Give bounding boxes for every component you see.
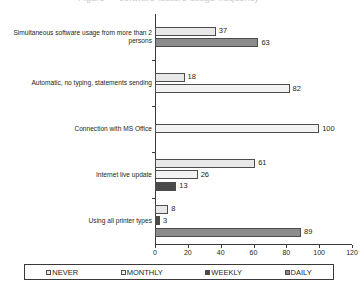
category-tick — [152, 106, 156, 107]
x-axis-tick — [155, 245, 156, 248]
legend-label-weekly: WEEKLY — [211, 268, 242, 277]
legend-swatch-daily — [285, 270, 290, 275]
legend-item-never[interactable]: NEVER — [46, 268, 78, 277]
bar-value-label: 3 — [163, 216, 167, 225]
x-axis-tick-label: 0 — [153, 249, 157, 256]
legend-swatch-monthly — [121, 270, 126, 275]
bar-value-label: 26 — [201, 170, 209, 179]
x-axis-tick — [221, 245, 222, 248]
bar-never — [155, 159, 255, 168]
category-label: Connection with MS Office — [0, 125, 156, 134]
bar-weekly — [155, 182, 176, 191]
category-label: Using all printer types — [0, 217, 156, 226]
bar-value-label: 8 — [171, 204, 175, 213]
bar-value-label: 61 — [258, 158, 266, 167]
x-axis-tick-label: 100 — [313, 249, 325, 256]
bar-never — [155, 205, 168, 214]
bar-monthly — [155, 170, 198, 179]
bar-value-label: 18 — [188, 72, 196, 81]
bar-monthly — [155, 124, 319, 133]
x-axis-tick — [188, 245, 189, 248]
x-axis-tick — [319, 245, 320, 248]
bar-daily — [155, 38, 258, 47]
bar-value-label: 63 — [261, 38, 269, 47]
bar-never — [155, 27, 216, 36]
bar-weekly — [155, 216, 160, 225]
category-label: Automatic, no typing, statements sending — [0, 79, 156, 88]
legend-label-daily: DAILY — [291, 268, 312, 277]
x-axis-tick-label: 20 — [184, 249, 192, 256]
legend-label-never: NEVER — [52, 268, 78, 277]
x-axis-tick — [254, 245, 255, 248]
category-tick — [152, 152, 156, 153]
chart-title-text: Figure — software feature usage frequenc… — [78, 0, 259, 3]
legend-item-daily[interactable]: DAILY — [285, 268, 312, 277]
x-axis-tick-label: 120 — [346, 249, 358, 256]
legend-swatch-weekly — [205, 270, 210, 275]
bar-never — [155, 73, 185, 82]
x-axis-tick — [286, 245, 287, 248]
legend-label-monthly: MONTHLY — [127, 268, 163, 277]
legend-item-monthly[interactable]: MONTHLY — [121, 268, 163, 277]
x-axis-tick-label: 80 — [282, 249, 290, 256]
category-tick — [152, 198, 156, 199]
bar-value-label: 89 — [304, 227, 312, 236]
chart-legend: NEVER MONTHLY WEEKLY DAILY — [24, 264, 334, 280]
category-label: Simultaneous software usage from more th… — [0, 29, 156, 46]
category-tick — [152, 60, 156, 61]
x-axis-tick — [352, 245, 353, 248]
bar-value-label: 13 — [179, 181, 187, 190]
bar-daily — [155, 228, 301, 237]
bar-monthly — [155, 84, 290, 93]
bar-chart: Figure — software feature usage frequenc… — [0, 0, 362, 285]
bar-value-label: 37 — [219, 26, 227, 35]
legend-swatch-never — [46, 270, 51, 275]
category-label: Internet live update — [0, 171, 156, 180]
legend-item-weekly[interactable]: WEEKLY — [205, 268, 242, 277]
chart-title-clipped: Figure — software feature usage frequenc… — [0, 0, 362, 11]
x-axis-tick-label: 40 — [217, 249, 225, 256]
bar-value-label: 82 — [293, 84, 301, 93]
x-axis-tick-label: 60 — [250, 249, 258, 256]
bar-value-label: 100 — [322, 124, 335, 133]
